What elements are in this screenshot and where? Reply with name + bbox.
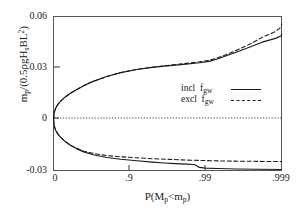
x-axis-label: P(Mp<mp) xyxy=(53,190,282,204)
series-path-excl-fgw-lower xyxy=(54,119,282,161)
legend-label-excl: excl fgw xyxy=(181,94,231,107)
legend: incl fgw excl fgw xyxy=(181,84,261,106)
x-tick-label-3: .999 xyxy=(264,172,296,183)
legend-swatch-dashed xyxy=(231,100,261,101)
y-tick-label-1: 0.03 xyxy=(3,61,47,72)
series-path-incl-fgw-upper xyxy=(54,34,282,119)
series-path-incl-fgw-lower xyxy=(54,119,282,169)
x-tick-label-2: .99 xyxy=(188,172,222,183)
y-tick-label-0: 0.06 xyxy=(3,10,47,21)
x-axis-label-text: P(Mp<mp) xyxy=(145,190,191,202)
figure-container: mp/(0.5ρgHsBL2) P(Mp<mp) 0.06 0.03 0 -0.… xyxy=(0,0,296,214)
y-tick-label-2: 0 xyxy=(3,112,47,123)
legend-swatch-solid xyxy=(231,89,261,90)
x-tick-marks xyxy=(129,165,205,171)
x-tick-label-1: .9 xyxy=(112,172,146,183)
legend-entry-excl: excl fgw xyxy=(181,95,261,106)
x-tick-label-0: 0 xyxy=(38,172,72,183)
